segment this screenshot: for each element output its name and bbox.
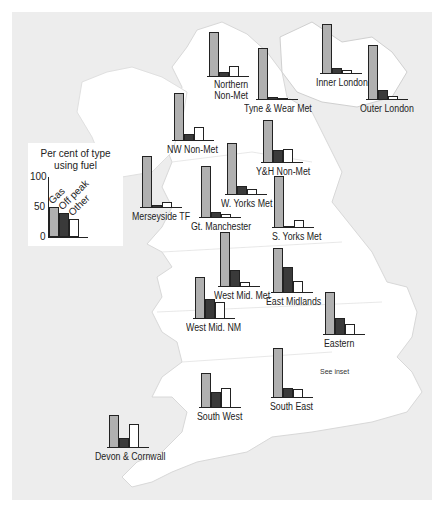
baseline: [107, 447, 149, 448]
y-tick-0: 0: [40, 231, 46, 242]
bar-gas: [201, 166, 211, 218]
region-chart-east-midlands: [273, 231, 313, 293]
baseline: [199, 407, 241, 408]
region-label-devon-cornwall: Devon & Cornwall: [95, 451, 165, 462]
bar-gas: [195, 277, 205, 319]
bar-group: [258, 38, 298, 100]
bar-offpeak: [211, 392, 221, 408]
region-chart-y-h-non-met: [263, 101, 303, 163]
region-label-line: Non-Met: [214, 90, 248, 101]
baseline: [272, 227, 314, 228]
region-label-line: East Midlands: [266, 296, 321, 307]
legend-title-line1: Per cent of type: [28, 148, 123, 160]
region-chart-tyne-wear-met: [258, 38, 298, 100]
region-chart-nw-non-met: [174, 79, 214, 141]
region-chart-northern-non-met: [209, 15, 249, 77]
region-label-inner-london: Inner London: [316, 77, 368, 88]
baseline: [271, 397, 313, 398]
bar-offpeak: [283, 267, 293, 293]
bar-group: [174, 79, 214, 141]
bar-other: [194, 127, 204, 141]
region-chart-gt-manchester: [201, 156, 241, 218]
region-label-line: Merseyside TF: [132, 211, 190, 222]
bar-other: [283, 149, 293, 163]
region-label-line: Eastern: [324, 338, 354, 349]
bar-gas: [273, 348, 283, 398]
bar-gas: [109, 415, 119, 448]
bar-offpeak: [335, 318, 345, 335]
bar-group: [322, 12, 362, 74]
region-label-line: Northern: [214, 79, 248, 90]
bar-other: [215, 302, 225, 319]
baseline: [271, 292, 313, 293]
bar-gas: [273, 248, 283, 293]
bar-gas: [174, 93, 184, 141]
bar-group: [109, 386, 149, 448]
region-label-northern-non-met: NorthernNon-Met: [214, 79, 248, 101]
legend-bar-gas: [49, 207, 59, 237]
bar-gas: [368, 45, 378, 100]
bar-group: [195, 257, 235, 319]
region-chart-s-yorks-met: [274, 166, 314, 228]
bar-group: [273, 231, 313, 293]
region-label-merseyside-tf: Merseyside TF: [132, 211, 190, 222]
bar-group: [142, 146, 182, 208]
region-label-south-west: South West: [197, 411, 242, 422]
bar-group: [263, 101, 303, 163]
baseline: [193, 318, 235, 319]
y-tick-100: 100: [30, 171, 47, 182]
region-label-line: West Mid. NM: [186, 322, 241, 333]
region-label-line: South East: [270, 401, 313, 412]
region-chart-eastern: [325, 273, 365, 335]
region-label-east-midlands: East Midlands: [266, 296, 321, 307]
bar-group: [274, 166, 314, 228]
baseline: [366, 99, 408, 100]
bar-group: [209, 15, 249, 77]
baseline: [256, 99, 298, 100]
region-chart-south-west: [201, 346, 241, 408]
baseline: [172, 140, 214, 141]
bar-gas: [209, 32, 219, 77]
region-label-line: Devon & Cornwall: [95, 451, 165, 462]
region-label-south-east: South East: [270, 401, 313, 412]
region-label-eastern: Eastern: [324, 338, 354, 349]
y-tick-50: 50: [34, 201, 45, 212]
bar-gas: [274, 176, 284, 228]
baseline: [207, 76, 249, 77]
region-label-line: South West: [197, 411, 242, 422]
baseline: [320, 73, 362, 74]
region-chart-west-mid-nm: [195, 257, 235, 319]
bar-other: [129, 424, 139, 448]
bar-gas: [142, 156, 152, 208]
baseline: [199, 217, 241, 218]
region-label-line: Outer London: [360, 103, 414, 114]
legend-x-axis: [48, 237, 88, 238]
region-chart-south-east: [273, 336, 313, 398]
region-label-line: Inner London: [316, 77, 368, 88]
bar-gas: [258, 48, 268, 100]
bar-offpeak: [205, 299, 215, 319]
region-label-outer-london: Outer London: [360, 103, 414, 114]
region-chart-outer-london: [368, 38, 408, 100]
baseline: [140, 207, 182, 208]
baseline: [323, 334, 365, 335]
baseline: [261, 162, 303, 163]
bar-group: [201, 346, 241, 408]
bar-gas: [325, 292, 335, 335]
bar-gas: [322, 24, 332, 74]
legend-bar-offpeak: [59, 213, 69, 237]
legend-bar-other: [69, 219, 79, 237]
bar-gas: [201, 373, 211, 408]
bar-group: [273, 336, 313, 398]
bar-group: [368, 38, 408, 100]
region-chart-merseyside-tf: [142, 146, 182, 208]
bar-group: [325, 273, 365, 335]
bar-other: [221, 388, 231, 408]
region-chart-inner-london: [322, 12, 362, 74]
bar-group: [201, 156, 241, 218]
legend-title: Per cent of type using fuel: [28, 148, 123, 172]
legend: Per cent of type using fuel 100 50 0 Gas…: [28, 143, 123, 246]
see-inset-note: See inset: [320, 368, 349, 375]
region-chart-devon-cornwall: [109, 386, 149, 448]
region-label-west-mid-nm: West Mid. NM: [186, 322, 241, 333]
